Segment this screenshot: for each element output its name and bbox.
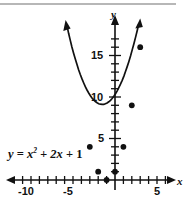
y-tick-label-15: 15 xyxy=(91,50,103,61)
data-point xyxy=(112,169,118,175)
x-tick-label-neg5: -5 xyxy=(63,186,73,197)
data-point xyxy=(129,102,135,108)
data-point xyxy=(87,144,93,150)
data-point xyxy=(121,144,127,150)
x-axis-label: x xyxy=(177,176,183,187)
equation-equals: = xyxy=(14,147,27,161)
equation-annotation: y = x2 + 2x + 1 xyxy=(8,148,82,161)
curve-left-arrow-icon xyxy=(63,20,70,31)
x-tick-label-neg10: -10 xyxy=(18,186,34,197)
data-point xyxy=(104,177,110,183)
x-tick-label-pos5: 5 xyxy=(154,186,160,197)
data-point xyxy=(95,169,101,175)
x-axis-left-arrow-icon xyxy=(6,176,15,184)
data-point xyxy=(137,44,143,50)
equation-term3: + 1 xyxy=(63,147,83,161)
y-tick-label-5: 5 xyxy=(98,133,104,144)
equation-term2: + 2x xyxy=(37,147,63,161)
graph-figure: -10 -5 5 5 10 15 x y y = x2 + 2x + 1 xyxy=(0,0,190,200)
y-tick-label-10: 10 xyxy=(91,92,103,103)
x-axis-right-arrow-icon xyxy=(167,176,176,184)
y-axis-label: y xyxy=(111,9,116,20)
curve-right-arrow-icon xyxy=(135,19,143,29)
